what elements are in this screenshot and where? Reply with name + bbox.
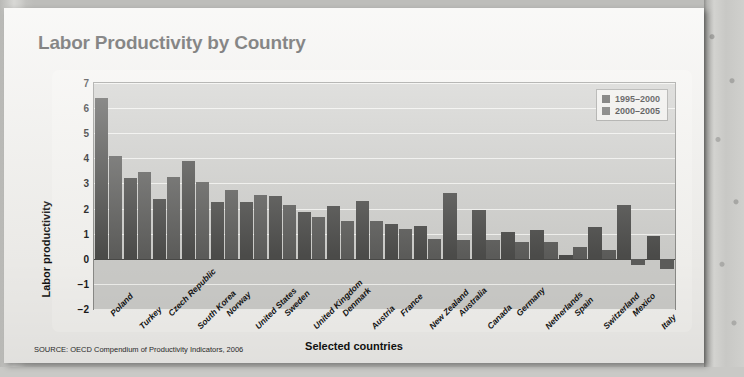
bar (95, 98, 108, 259)
page-title: Labor Productivity by Country (38, 32, 306, 54)
bar (631, 259, 644, 265)
legend-swatch-icon (602, 95, 610, 103)
bar (501, 232, 514, 258)
bar (196, 182, 209, 259)
bar (530, 230, 543, 259)
bar (573, 247, 586, 258)
bar (341, 221, 354, 259)
bar (138, 172, 151, 259)
bar (182, 161, 195, 259)
bar (211, 202, 224, 259)
bar (298, 212, 311, 258)
bar-group (443, 83, 472, 309)
bar (443, 193, 456, 258)
y-axis-tick-label: 5 (83, 128, 89, 139)
bar (544, 242, 557, 258)
bar (457, 240, 470, 259)
plot-area: 1995–2000 2000–2005 76543210−1−2 (93, 82, 676, 310)
bar (414, 226, 427, 259)
bar (124, 178, 137, 258)
bar-group (501, 83, 530, 309)
legend-label: 2000–2005 (615, 106, 660, 116)
bar (225, 190, 238, 259)
chart-container: Labor productivity 1995–2000 2000–2005 7… (52, 70, 692, 332)
y-axis-tick-label: 4 (83, 153, 89, 164)
bar (588, 227, 601, 258)
bar-group (385, 83, 414, 309)
bar (283, 205, 296, 259)
bar (109, 156, 122, 259)
bar (559, 255, 572, 259)
bar (602, 250, 615, 259)
bar-group (326, 83, 355, 309)
y-axis-tick-label: 3 (83, 178, 89, 189)
bar (327, 206, 340, 259)
chart-legend: 1995–2000 2000–2005 (596, 89, 668, 121)
bar (312, 217, 325, 258)
bar (385, 224, 398, 259)
bar (153, 199, 166, 259)
bar (269, 196, 282, 259)
y-axis-tick-label: −1 (78, 278, 89, 289)
bar (647, 236, 660, 259)
bar (486, 240, 499, 259)
x-axis-tick-label: Italy (659, 312, 678, 331)
bar-group (472, 83, 501, 309)
bar-group (355, 83, 384, 309)
y-axis-tick-label: −2 (78, 304, 89, 315)
bar (472, 210, 485, 259)
bar (167, 177, 180, 259)
bar (254, 195, 267, 259)
bar-group (297, 83, 326, 309)
legend-item-2000-2005: 2000–2005 (602, 105, 660, 117)
y-axis-tick-label: 6 (83, 103, 89, 114)
bar (399, 229, 412, 259)
bar (428, 239, 441, 259)
bar-group (94, 83, 123, 309)
bar (515, 242, 528, 258)
y-axis-tick-label: 1 (83, 228, 89, 239)
bar-group (123, 83, 152, 309)
legend-swatch-icon (602, 107, 610, 115)
legend-label: 1995–2000 (615, 94, 660, 104)
page-edge-texture (704, 0, 744, 367)
y-axis-title: Labor productivity (40, 201, 52, 298)
bar (660, 259, 673, 269)
bar (240, 202, 253, 259)
bar (617, 205, 630, 259)
bar-group (414, 83, 443, 309)
bar-series-group (94, 83, 675, 309)
y-axis-tick-label: 0 (83, 253, 89, 264)
bar-group (152, 83, 181, 309)
bar-group (239, 83, 268, 309)
y-axis-tick-label: 2 (83, 203, 89, 214)
source-note: SOURCE: OECD Compendium of Productivity … (34, 345, 243, 354)
bar-group (268, 83, 297, 309)
bar (356, 201, 369, 259)
bar (370, 221, 383, 259)
legend-item-1995-2000: 1995–2000 (602, 93, 660, 105)
y-axis-tick-label: 7 (83, 78, 89, 89)
figure-page: Labor Productivity by Country Labor prod… (4, 8, 704, 363)
bar-group (530, 83, 559, 309)
bar-group (559, 83, 588, 309)
